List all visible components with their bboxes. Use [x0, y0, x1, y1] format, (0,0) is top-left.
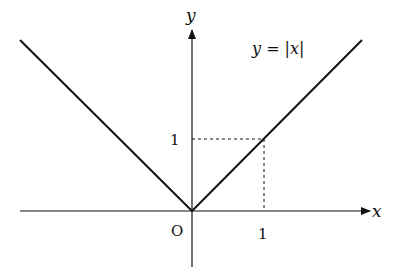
- left-branch: [20, 40, 192, 211]
- origin-label: O: [171, 222, 183, 240]
- x-axis-label: x: [372, 201, 382, 221]
- equation-label: y = |x|: [251, 39, 304, 58]
- x-tick-label: 1: [258, 225, 268, 243]
- graph-abs-x: y x O 1 1 y = |x|: [0, 0, 394, 276]
- y-tick-label: 1: [170, 131, 180, 149]
- y-axis-label: y: [185, 5, 196, 25]
- right-branch: [192, 40, 362, 211]
